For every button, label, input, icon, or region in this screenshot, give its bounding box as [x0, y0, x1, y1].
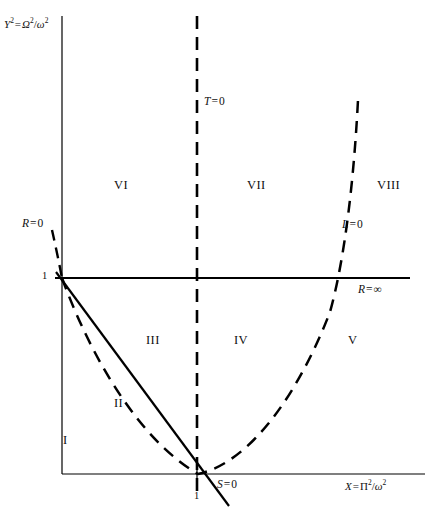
region-label-7: VII [247, 179, 266, 192]
curve-label-s-zero: S=0 [217, 479, 237, 491]
x-axis-label: X=Π2/ω2 [345, 479, 386, 492]
region-label-1: I [63, 434, 68, 447]
x-axis-tick-label-1: 1 [194, 491, 199, 502]
curve-label-s-zero-var: S [217, 478, 223, 490]
region-label-2: II [114, 397, 123, 410]
curve-label-r-infinity-eq: = [365, 283, 374, 295]
y-axis-tick-label-1: 1 [42, 271, 47, 282]
curve-label-r-infinity-var: R [358, 283, 365, 295]
y-axis-label: Y2=Ω2/ω2 [4, 17, 48, 30]
y-axis-label-eq: = [14, 18, 22, 30]
curve-label-t-zero-val: 0 [219, 95, 225, 107]
curve-label-r-zero-eq: = [29, 217, 38, 229]
curve-label-s-zero-eq: = [223, 478, 232, 490]
region-label-3: III [146, 334, 160, 347]
x-axis-label-eq: = [352, 480, 360, 492]
y-axis-label-den: ω [37, 18, 45, 30]
curve-r-zero-upper [52, 230, 62, 278]
curve-label-l-zero: L=0 [342, 219, 363, 231]
curve-label-r-infinity: R=∞ [358, 284, 382, 296]
curve-label-r-zero: R=0 [22, 218, 43, 230]
curve-label-r-infinity-val: ∞ [374, 283, 382, 295]
y-axis-label-num: Ω [22, 18, 30, 30]
curve-label-t-zero: T=0 [204, 96, 225, 108]
y-axis-label-den-sup: 2 [45, 16, 49, 25]
parameter-space-diagram: Y2=Ω2/ω2 X=Π2/ω2 1 1 R=0 T=0 L=0 S=0 R=∞… [0, 0, 425, 519]
curve-label-s-zero-val: 0 [231, 478, 237, 490]
region-label-6: VI [114, 179, 128, 192]
curve-label-t-zero-eq: = [210, 95, 219, 107]
curve-label-l-zero-val: 0 [357, 218, 363, 230]
x-axis-label-var: X [345, 480, 352, 492]
curve-s-zero [56, 272, 229, 506]
x-axis-label-num: Π [360, 480, 368, 492]
curve-label-l-zero-eq: = [348, 218, 357, 230]
x-axis-label-den-sup: 2 [382, 478, 386, 487]
region-label-5: V [348, 334, 357, 347]
region-label-8: VIII [377, 179, 400, 192]
curve-label-r-zero-var: R [22, 217, 29, 229]
curve-label-r-zero-val: 0 [38, 217, 44, 229]
curve-dashed-parabola [62, 100, 358, 474]
region-label-4: IV [234, 334, 248, 347]
